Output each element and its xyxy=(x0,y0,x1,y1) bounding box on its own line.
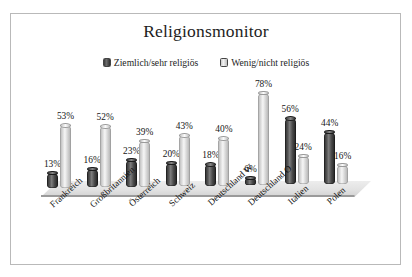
bar-light[interactable] xyxy=(179,135,190,186)
bar-cap xyxy=(324,130,335,135)
bar-value-label: 56% xyxy=(282,104,299,114)
bar-value-label: 23% xyxy=(123,146,140,156)
bar-cap xyxy=(337,163,348,168)
chart-screenshot: Religionsmonitor Ziemlich/sehr religiös … xyxy=(0,0,412,277)
plot-area: 13%53%16%52%23%39%20%43%18%40%6%78%56%24… xyxy=(0,0,412,277)
bar-group: 56%24% xyxy=(285,0,311,277)
bar-group: 23%39% xyxy=(126,0,152,277)
bar-cap xyxy=(205,162,216,167)
bar-light[interactable] xyxy=(60,125,71,188)
bar-value-label: 18% xyxy=(202,150,219,160)
bar-cap xyxy=(60,123,71,128)
bar-value-label: 16% xyxy=(334,151,351,161)
bar-cap xyxy=(258,91,269,96)
bar-dark[interactable] xyxy=(47,173,58,188)
bar-cap xyxy=(298,154,309,159)
bar-light[interactable] xyxy=(100,126,111,187)
bar-value-label: 52% xyxy=(97,112,114,122)
bar-value-label: 78% xyxy=(255,79,272,89)
bar-cap xyxy=(179,133,190,138)
bar-group: 13%53% xyxy=(47,0,73,277)
bar-group: 16%52% xyxy=(87,0,113,277)
bar-value-label: 20% xyxy=(163,149,180,159)
bar-group: 20%43% xyxy=(166,0,192,277)
bar-group: 18%40% xyxy=(205,0,231,277)
bar-cap xyxy=(87,167,98,172)
bar-value-label: 39% xyxy=(136,127,153,137)
bar-value-label: 13% xyxy=(44,159,61,169)
bar-dark[interactable] xyxy=(205,164,216,185)
bar-value-label: 40% xyxy=(215,124,232,134)
bar-value-label: 24% xyxy=(295,142,312,152)
bar-group: 6%78% xyxy=(245,0,271,277)
bar-cap xyxy=(166,161,177,166)
bar-dark[interactable] xyxy=(166,163,177,187)
bar-cap xyxy=(47,171,58,176)
bar-cap xyxy=(285,116,296,121)
bar-cap xyxy=(126,158,137,163)
bar-light[interactable] xyxy=(337,165,348,184)
bar-value-label: 44% xyxy=(321,118,338,128)
bar-cap xyxy=(100,124,111,129)
bar-group: 44%16% xyxy=(324,0,350,277)
bar-value-label: 53% xyxy=(57,111,74,121)
bar-cap xyxy=(218,136,229,141)
bar-light[interactable] xyxy=(258,93,269,185)
bar-value-label: 43% xyxy=(176,121,193,131)
bar-light[interactable] xyxy=(298,156,309,184)
bar-light[interactable] xyxy=(218,138,229,185)
bar-dark[interactable] xyxy=(245,178,256,185)
bar-cap xyxy=(139,139,150,144)
bar-value-label: 16% xyxy=(84,155,101,165)
bar-dark[interactable] xyxy=(87,169,98,188)
